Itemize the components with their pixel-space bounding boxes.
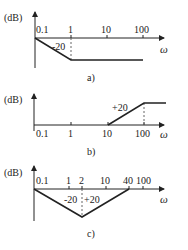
x-axis-label: ω [160, 43, 168, 55]
tick-label: 2 [79, 175, 84, 186]
x-axis-label: ω [160, 193, 168, 205]
caption: b) [87, 146, 95, 158]
diagram-b: (dB) ω 0.1 1 10 100 +20 b) [4, 94, 168, 158]
tick-label: 100 [135, 128, 150, 139]
tick-label: 0.1 [36, 175, 49, 186]
y-axis-label: (dB) [4, 12, 22, 24]
caption: c) [87, 228, 95, 240]
tick-label: 10 [100, 175, 110, 186]
tick-label: 10 [102, 128, 112, 139]
diagram-a: (dB) ω 0.1 1 10 100 -20 a) [4, 12, 168, 84]
caption: a) [87, 72, 95, 84]
bode-diagrams: (dB) ω 0.1 1 10 100 -20 a) (dB) ω 0.1 1 … [0, 0, 188, 250]
tick-label: 1 [68, 128, 73, 139]
tick-label: 1 [66, 175, 71, 186]
y-axis-label: (dB) [4, 94, 22, 106]
tick-label: 100 [136, 175, 151, 186]
tick-label: 10 [101, 24, 111, 35]
slope-label: -20 [52, 41, 65, 52]
tick-label: 40 [123, 175, 133, 186]
y-axis-label: (dB) [4, 167, 22, 179]
slope-label: -20 [64, 194, 77, 205]
slope-label: +20 [84, 194, 100, 205]
tick-label: 100 [134, 24, 149, 35]
x-axis-label: ω [160, 128, 168, 140]
tick-label: 1 [68, 24, 73, 35]
diagram-c: (dB) ω 0.1 1 2 10 40 100 -20 +20 c) [4, 166, 168, 240]
tick-label: 0.1 [36, 24, 49, 35]
tick-label: 0.1 [36, 128, 49, 139]
slope-label: +20 [112, 102, 128, 113]
